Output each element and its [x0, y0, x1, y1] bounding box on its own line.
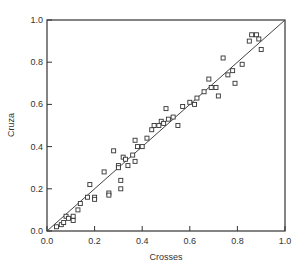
data-point — [254, 33, 258, 37]
y-tick-label: 1.0 — [30, 15, 43, 25]
data-point — [140, 145, 144, 149]
data-point — [116, 166, 120, 170]
data-point — [226, 73, 230, 77]
data-point — [131, 153, 135, 157]
data-point — [231, 69, 235, 73]
data-point — [78, 202, 82, 206]
x-axis: 0.00.20.40.60.81.0 — [41, 226, 292, 246]
data-point — [126, 164, 130, 168]
y-tick-label: 0.2 — [30, 184, 43, 194]
data-point — [152, 124, 156, 128]
data-point — [135, 145, 139, 149]
x-tick-label: 0.4 — [136, 236, 149, 246]
data-point — [176, 124, 180, 128]
data-point — [193, 102, 197, 106]
y-axis: 0.00.20.40.60.81.0 — [30, 15, 52, 236]
data-point — [145, 136, 149, 140]
data-point — [240, 62, 244, 66]
y-tick-label: 0.8 — [30, 57, 43, 67]
data-point — [102, 170, 106, 174]
x-tick-label: 0.8 — [231, 236, 244, 246]
data-point — [112, 149, 116, 153]
data-point — [107, 193, 111, 197]
y-tick-label: 0.4 — [30, 142, 43, 152]
data-point — [124, 157, 128, 161]
data-point — [259, 48, 263, 52]
data-point — [62, 221, 66, 225]
data-point — [133, 138, 137, 142]
data-point — [250, 33, 254, 37]
scatter-chart: 0.00.20.40.60.81.0 0.00.20.40.60.81.0 Cr… — [0, 0, 305, 276]
y-axis-label: Cruza — [6, 113, 16, 137]
data-point — [55, 225, 59, 229]
data-point — [88, 183, 92, 187]
data-point — [71, 218, 75, 222]
data-point — [233, 81, 237, 85]
data-point — [214, 86, 218, 90]
data-point — [257, 37, 261, 41]
data-point — [207, 77, 211, 81]
data-point — [85, 195, 89, 199]
data-point — [93, 197, 97, 201]
data-point — [119, 178, 123, 182]
x-tick-label: 0.2 — [88, 236, 101, 246]
data-point — [209, 86, 213, 90]
data-point — [119, 187, 123, 191]
data-points — [55, 33, 264, 229]
data-point — [150, 128, 154, 132]
x-tick-label: 0.0 — [41, 236, 54, 246]
data-point — [166, 117, 170, 121]
data-point — [181, 105, 185, 109]
data-point — [202, 90, 206, 94]
data-point — [247, 39, 251, 43]
data-point — [171, 115, 175, 119]
data-point — [133, 159, 137, 163]
data-point — [164, 107, 168, 111]
data-point — [157, 124, 161, 128]
data-point — [162, 121, 166, 125]
data-point — [71, 214, 75, 218]
data-point — [76, 208, 80, 212]
data-point — [195, 96, 199, 100]
x-tick-label: 0.6 — [184, 236, 197, 246]
data-point — [188, 100, 192, 104]
data-point — [216, 94, 220, 98]
data-point — [221, 56, 225, 60]
x-axis-label: Crosses — [149, 252, 183, 262]
data-point — [66, 216, 70, 220]
y-tick-label: 0.6 — [30, 99, 43, 109]
x-tick-label: 1.0 — [279, 236, 292, 246]
y-tick-label: 0.0 — [30, 226, 43, 236]
